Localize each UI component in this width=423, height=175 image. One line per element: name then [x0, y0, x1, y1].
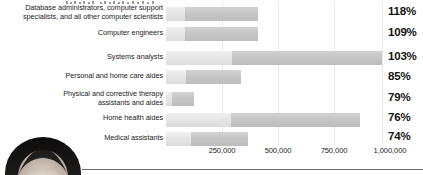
table-row: Physical and corrective therapy assistan… — [0, 90, 423, 110]
stacked-bar — [166, 113, 360, 127]
bar-segment-base — [166, 7, 185, 21]
bar-track — [166, 70, 382, 84]
percent-label: 76% — [388, 111, 423, 123]
stacked-bar — [166, 27, 258, 41]
bar-segment-base — [166, 51, 232, 65]
bar-rows: Database administrators, computer suppor… — [0, 0, 423, 146]
percent-label: 85% — [388, 70, 423, 82]
bar-track — [166, 92, 382, 106]
table-row: Personal and home care aides 85% — [0, 69, 423, 89]
person-photo — [4, 133, 82, 175]
footer-divider — [82, 169, 423, 170]
percent-label: 109% — [388, 26, 423, 38]
bar-segment-growth — [232, 51, 382, 65]
category-label: Personal and home care aides — [1, 72, 163, 81]
bar-track — [166, 51, 382, 65]
table-row: Systems analysts 103% — [0, 46, 423, 66]
bar-segment-growth — [172, 92, 194, 106]
bar-track — [166, 7, 382, 21]
category-label: Physical and corrective therapy assistan… — [1, 90, 163, 107]
bar-segment-base — [166, 132, 191, 146]
stacked-bar — [166, 70, 241, 84]
percent-label: 103% — [388, 50, 423, 62]
bar-segment-growth — [191, 132, 248, 146]
percent-label: 118% — [388, 5, 423, 17]
table-row: Database administrators, computer suppor… — [0, 4, 423, 24]
percent-label: 79% — [388, 91, 423, 103]
bar-track — [166, 27, 382, 41]
category-label: Database administrators, computer suppor… — [1, 4, 163, 21]
x-tick-label: 1,000,000 — [355, 146, 423, 155]
stacked-bar — [166, 92, 194, 106]
bar-segment-base — [166, 27, 185, 41]
table-row: Computer engineers 109% — [0, 25, 423, 45]
chart-container: Database administrators, computer suppor… — [0, 0, 423, 175]
category-label: Home health aides — [1, 114, 163, 123]
category-label: Systems analysts — [1, 53, 163, 62]
bar-segment-growth — [186, 70, 241, 84]
stacked-bar — [166, 132, 248, 146]
bar-segment-growth — [185, 7, 258, 21]
bar-segment-growth — [185, 27, 258, 41]
stacked-bar — [166, 7, 258, 21]
percent-label: 74% — [388, 130, 423, 142]
bar-track — [166, 132, 382, 146]
table-row: Home health aides 76% — [0, 111, 423, 131]
category-label: Computer engineers — [1, 29, 163, 38]
stacked-bar — [166, 51, 382, 65]
bar-track — [166, 113, 382, 127]
bar-segment-base — [166, 70, 186, 84]
bar-segment-growth — [231, 113, 360, 127]
bar-segment-base — [166, 113, 231, 127]
